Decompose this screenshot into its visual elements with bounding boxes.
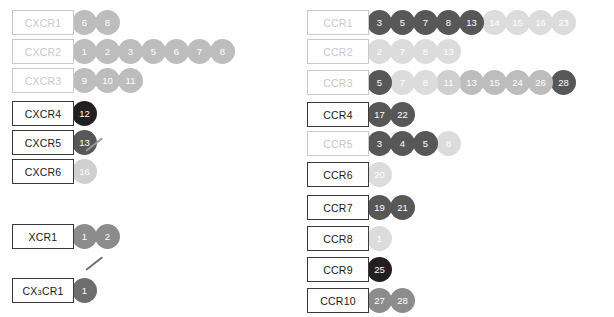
receptor-label-ccr2[interactable]: CCR2 xyxy=(307,39,369,64)
ligand-node-11[interactable]: 11 xyxy=(118,68,143,93)
receptor-row: CCR41722 xyxy=(307,100,413,129)
ligand-strip: 25 xyxy=(367,255,390,284)
ligand-node-5[interactable]: 5 xyxy=(367,70,392,95)
receptor-row: CXCR21235678 xyxy=(12,37,233,66)
receptor-row: CCR53458 xyxy=(307,129,459,158)
ligand-strip: 1921 xyxy=(367,193,413,222)
ligand-node-28[interactable]: 28 xyxy=(551,70,576,95)
ligand-node-8[interactable]: 8 xyxy=(413,39,438,64)
ligand-strip: 13 xyxy=(72,128,95,157)
ligand-strip: 12 xyxy=(72,222,118,251)
ligand-node-7[interactable]: 7 xyxy=(413,10,438,35)
diagram-canvas: CXCR168CXCR21235678CXCR391011CXCR412CXCR… xyxy=(0,0,614,317)
ligand-node-25[interactable]: 25 xyxy=(367,257,392,282)
receptor-row: CCR227813 xyxy=(307,37,459,66)
ligand-node-23[interactable]: 23 xyxy=(551,10,576,35)
receptor-label-cxcr1[interactable]: CXCR1 xyxy=(12,10,74,35)
ligand-node-24[interactable]: 24 xyxy=(505,70,530,95)
ligand-node-2[interactable]: 2 xyxy=(95,224,120,249)
receptor-label-ccr7[interactable]: CCR7 xyxy=(307,195,369,220)
ligand-node-7[interactable]: 7 xyxy=(390,39,415,64)
ligand-node-1[interactable]: 1 xyxy=(72,39,97,64)
receptor-label-cx3cr1[interactable]: CX3CR1 xyxy=(12,278,74,303)
receptor-label-cxcr4[interactable]: CXCR4 xyxy=(12,101,74,126)
receptor-label-ccr6[interactable]: CCR6 xyxy=(307,162,369,187)
ligand-node-9[interactable]: 9 xyxy=(72,68,97,93)
receptor-label-cxcr3[interactable]: CXCR3 xyxy=(12,68,74,93)
ligand-strip: 1722 xyxy=(367,100,413,129)
receptor-label-ccr5[interactable]: CCR5 xyxy=(307,131,369,156)
ligand-node-5[interactable]: 5 xyxy=(141,39,166,64)
ligand-node-3[interactable]: 3 xyxy=(367,131,392,156)
receptor-row: CXCR391011 xyxy=(12,66,141,95)
ligand-strip: 20 xyxy=(367,160,390,189)
ligand-strip: 35781314151623 xyxy=(367,8,574,37)
receptor-row: CXCR168 xyxy=(12,8,118,37)
ligand-node-1[interactable]: 1 xyxy=(72,278,97,303)
receptor-label-ccr9[interactable]: CCR9 xyxy=(307,257,369,282)
ligand-strip: 91011 xyxy=(72,66,141,95)
receptor-label-ccr3[interactable]: CCR3 xyxy=(307,70,369,95)
ligand-node-2[interactable]: 2 xyxy=(367,39,392,64)
ligand-node-8[interactable]: 8 xyxy=(413,70,438,95)
ligand-node-28[interactable]: 28 xyxy=(390,288,415,313)
ligand-node-5[interactable]: 5 xyxy=(413,131,438,156)
ligand-node-8[interactable]: 8 xyxy=(95,10,120,35)
ligand-node-1[interactable]: 1 xyxy=(72,224,97,249)
receptor-row: CCR71921 xyxy=(307,193,413,222)
ligand-node-20[interactable]: 20 xyxy=(367,162,392,187)
receptor-row: XCR112 xyxy=(12,222,118,251)
receptor-row: CCR620 xyxy=(307,160,390,189)
ligand-node-4[interactable]: 4 xyxy=(390,131,415,156)
ligand-node-1[interactable]: 1 xyxy=(367,226,392,251)
ligand-node-3[interactable]: 3 xyxy=(367,10,392,35)
ligand-strip: 2728 xyxy=(367,286,413,315)
receptor-label-xcr1[interactable]: XCR1 xyxy=(12,224,74,249)
receptor-label-ccr4[interactable]: CCR4 xyxy=(307,102,369,127)
ligand-node-14[interactable]: 14 xyxy=(482,10,507,35)
ligand-node-17[interactable]: 17 xyxy=(367,102,392,127)
ligand-node-15[interactable]: 15 xyxy=(505,10,530,35)
receptor-row: CCR925 xyxy=(307,255,390,284)
receptor-row: CXCR513 xyxy=(12,128,95,157)
receptor-label-cxcr5[interactable]: CXCR5 xyxy=(12,130,74,155)
ligand-node-10[interactable]: 10 xyxy=(95,68,120,93)
ligand-strip: 1 xyxy=(72,276,95,305)
ligand-node-5[interactable]: 5 xyxy=(390,10,415,35)
ligand-node-2[interactable]: 2 xyxy=(95,39,120,64)
receptor-label-ccr10[interactable]: CCR10 xyxy=(307,288,369,313)
ligand-node-7[interactable]: 7 xyxy=(187,39,212,64)
ligand-node-6[interactable]: 6 xyxy=(164,39,189,64)
receptor-label-ccr8[interactable]: CCR8 xyxy=(307,226,369,251)
ligand-node-26[interactable]: 26 xyxy=(528,70,553,95)
receptor-row: CXCR412 xyxy=(12,99,95,128)
receptor-row: CXCR616 xyxy=(12,157,95,186)
ligand-node-15[interactable]: 15 xyxy=(482,70,507,95)
ligand-node-6[interactable]: 6 xyxy=(72,10,97,35)
ligand-node-7[interactable]: 7 xyxy=(390,70,415,95)
ligand-node-16[interactable]: 16 xyxy=(72,159,97,184)
ligand-node-3[interactable]: 3 xyxy=(118,39,143,64)
receptor-label-cxcr2[interactable]: CXCR2 xyxy=(12,39,74,64)
ligand-node-8[interactable]: 8 xyxy=(210,39,235,64)
ligand-node-8[interactable]: 8 xyxy=(436,10,461,35)
ligand-node-16[interactable]: 16 xyxy=(528,10,553,35)
ligand-node-21[interactable]: 21 xyxy=(390,195,415,220)
ligand-node-8[interactable]: 8 xyxy=(436,131,461,156)
ligand-strip: 27813 xyxy=(367,37,459,66)
ligand-node-12[interactable]: 12 xyxy=(72,101,97,126)
ligand-node-22[interactable]: 22 xyxy=(390,102,415,127)
ligand-node-19[interactable]: 19 xyxy=(367,195,392,220)
receptor-row: CCR81 xyxy=(307,224,390,253)
receptor-row: CX3CR11 xyxy=(12,276,95,305)
receptor-row: CCR135781314151623 xyxy=(307,8,574,37)
ligand-node-13[interactable]: 13 xyxy=(436,39,461,64)
ligand-node-13[interactable]: 13 xyxy=(459,70,484,95)
receptor-label-ccr1[interactable]: CCR1 xyxy=(307,10,369,35)
receptor-label-cxcr6[interactable]: CXCR6 xyxy=(12,159,74,184)
ligand-strip: 578111315242628 xyxy=(367,68,574,97)
ligand-node-13[interactable]: 13 xyxy=(459,10,484,35)
ligand-strip: 3458 xyxy=(367,129,459,158)
ligand-node-27[interactable]: 27 xyxy=(367,288,392,313)
ligand-node-11[interactable]: 11 xyxy=(436,70,461,95)
